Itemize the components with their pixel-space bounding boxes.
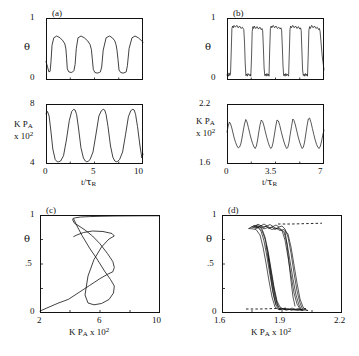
- panel-a-kpa-ylabel: K PA x 102: [14, 120, 33, 141]
- panel-d-tag: (d): [228, 205, 239, 215]
- panel-b-theta-ylabel: θ: [205, 42, 211, 53]
- panel-b-xlabel-sub: R: [273, 180, 278, 188]
- panel-a-kpa-ylabel-main: K P: [14, 119, 28, 129]
- panel-c-xtick-2: 10: [152, 315, 161, 325]
- panel-d-xlabel-main: K P: [251, 327, 265, 337]
- panel-d-xlabel: K PA x 102: [251, 327, 291, 339]
- panel-c-ylabel: θ: [24, 234, 30, 245]
- panel-c-xlabel-main: K P: [69, 327, 83, 337]
- panel-c-xtick-1: 6: [97, 315, 102, 325]
- panel-a-kpa-ytick-max: 8: [30, 98, 35, 108]
- panel-c-xtick-0: 2: [37, 315, 42, 325]
- panel-d-plot: [222, 215, 342, 313]
- panel-d-loop-1: [256, 224, 306, 310]
- panel-a-tag: (a): [52, 8, 62, 18]
- panel-b-kpa-ylabel: K PA x 102: [196, 117, 215, 138]
- panel-b-xtick-1: 3.5: [265, 166, 276, 176]
- panel-b-kpa-ytick-max: 2.2: [199, 98, 210, 108]
- panel-a-theta-svg: [46, 18, 143, 80]
- panel-a-kpa-svg: [46, 104, 143, 164]
- panel-b-kpa-ylabel-sup: 2: [212, 127, 216, 135]
- panel-b-kpa-ytick-min: 1.6: [199, 157, 210, 167]
- panel-a-kpa-ytick-min: 4: [30, 157, 35, 167]
- panel-a-kpa-ylabel-exp: x 10: [14, 131, 30, 141]
- panel-d-xtick-1: 1.9: [274, 315, 285, 325]
- panel-b-xtick-0: 0: [224, 166, 229, 176]
- panel-a-theta-curve: [46, 36, 143, 73]
- panel-c-plot: [40, 215, 160, 313]
- panel-d-ytick-1: .5: [207, 258, 214, 268]
- panel-a-xtick-2: 10: [134, 166, 143, 176]
- panel-b-theta-ytick-1: 1: [211, 12, 216, 22]
- panel-b-kpa-ylabel-exp: x 10: [196, 128, 212, 138]
- panel-b-kpa-svg: [227, 104, 324, 164]
- panel-b-xtick-2: 7: [318, 166, 323, 176]
- panel-d-xtick-2: 2.2: [334, 315, 345, 325]
- panel-d-ytick-2: 1: [212, 209, 217, 219]
- panel-c-tag: (c): [46, 205, 56, 215]
- panel-a-kpa-ylabel-sup: 2: [30, 130, 34, 138]
- panel-a-xtick-1: 5: [91, 166, 96, 176]
- panel-d-xlabel-sup: 2: [288, 326, 292, 334]
- panel-d-xtick-0: 1.6: [214, 315, 225, 325]
- panel-b-xlabel: t/τR: [262, 177, 277, 189]
- panel-b-kpa-ylabel-main: K P: [196, 116, 210, 126]
- panel-c-ytick-0: 0: [30, 306, 35, 316]
- panel-c-xlabel-sup: 2: [106, 326, 110, 334]
- panel-c-ytick-1: .5: [25, 258, 32, 268]
- panel-d-dashed-upper: [278, 223, 322, 224]
- panel-d-loop-4: [254, 226, 303, 310]
- panel-a-kpa-curve: [46, 109, 143, 162]
- panel-c-ytick-2: 1: [30, 209, 35, 219]
- panel-b-theta-svg: [227, 18, 324, 80]
- panel-a-theta-ytick-0: 0: [30, 72, 35, 82]
- panel-b-theta-curve: [227, 25, 324, 76]
- panel-d-ylabel: θ: [206, 234, 212, 245]
- panel-a-kpa-plot: [46, 104, 143, 164]
- panel-a-xlabel: t/τR: [81, 177, 96, 189]
- panel-d-xlabel-tail: x 10: [270, 327, 288, 337]
- panel-b-theta-plot: [227, 18, 324, 80]
- panel-a-xtick-0: 0: [43, 166, 48, 176]
- panel-a-theta-ytick-1: 1: [30, 12, 35, 22]
- panel-c-xlabel-tail: x 10: [88, 327, 106, 337]
- panel-b-kpa-curve: [227, 118, 324, 149]
- panel-c-svg: [40, 215, 160, 313]
- panel-c-xlabel: K PA x 102: [69, 327, 109, 339]
- panel-d-loop-3: [249, 227, 308, 311]
- figure-root: 1 0 θ (a) 8 4 K PA x 102 0 5 10 t/τR 1 0…: [0, 0, 359, 356]
- panel-d-svg: [222, 215, 342, 313]
- panel-b-tag: (b): [233, 8, 244, 18]
- panel-b-kpa-plot: [227, 104, 324, 164]
- panel-a-theta-plot: [46, 18, 143, 80]
- panel-a-xlabel-sub: R: [92, 180, 97, 188]
- panel-a-theta-ylabel: θ: [24, 42, 30, 53]
- panel-b-theta-ytick-0: 0: [211, 72, 216, 82]
